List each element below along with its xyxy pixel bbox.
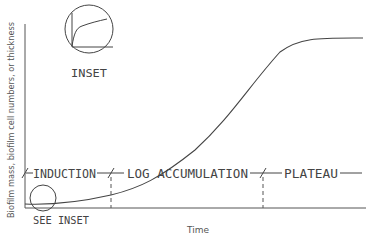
phase-label-log-accumulation: LOG ACCUMULATION — [127, 166, 248, 181]
phase-label-plateau: PLATEAU — [284, 166, 338, 181]
x-axis-label: Time — [186, 225, 209, 235]
see-inset-label: SEE INSET — [33, 214, 90, 226]
phase-label-induction: INDUCTION — [33, 166, 96, 181]
y-axis-label: Biofilm mass, biofilm cell numbers, or t… — [6, 21, 16, 218]
inset-curve — [72, 19, 107, 46]
inset-label: INSET — [71, 67, 107, 80]
biofilm-growth-diagram: INDUCTION LOG ACCUMULATION PLATEAU SEE I… — [0, 0, 372, 244]
see-inset-circle — [30, 185, 56, 211]
inset — [65, 5, 113, 53]
